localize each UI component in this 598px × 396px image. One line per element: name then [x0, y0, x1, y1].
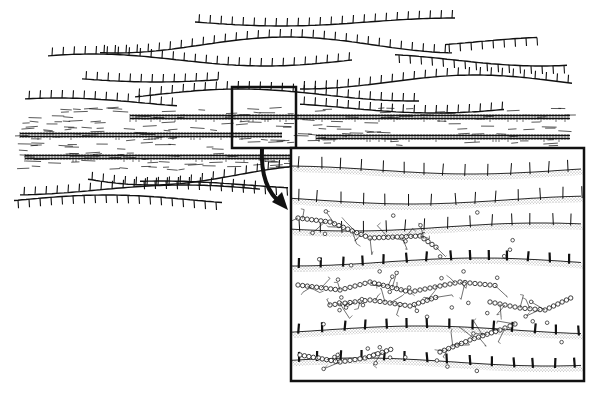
spore — [545, 321, 549, 325]
spore — [349, 264, 353, 268]
spore — [446, 365, 450, 369]
spore — [463, 282, 467, 286]
spore — [467, 301, 471, 305]
spore — [322, 322, 326, 326]
spore — [475, 369, 479, 373]
hatched-strand — [130, 114, 570, 122]
barbed-strand — [48, 46, 352, 66]
spore — [462, 270, 466, 274]
barbed-strand — [300, 96, 504, 113]
barbed-strand — [82, 71, 219, 82]
spore — [340, 296, 344, 300]
spore — [502, 254, 506, 258]
spore — [560, 340, 564, 344]
spore — [511, 238, 515, 242]
spore — [438, 255, 442, 259]
spore — [508, 248, 512, 252]
spore — [360, 297, 364, 301]
spore — [450, 306, 454, 310]
barbed-strand — [195, 10, 455, 26]
spore — [403, 355, 407, 359]
spore — [337, 301, 341, 305]
spore — [333, 355, 337, 359]
spore — [425, 315, 429, 319]
magnified-inset — [281, 148, 584, 381]
barbed-strand — [14, 195, 222, 210]
spore — [440, 276, 444, 280]
spore — [374, 361, 378, 365]
spore — [435, 359, 439, 363]
fiber-layers-figure — [0, 0, 598, 396]
spore — [388, 290, 392, 294]
barbed-strand — [25, 90, 177, 106]
barbed-strand — [445, 37, 538, 52]
spore — [317, 257, 321, 261]
spore — [407, 286, 411, 290]
hatched-strand — [316, 134, 570, 142]
spore — [361, 303, 365, 307]
barbed-strand — [100, 29, 452, 53]
barbed-strand — [20, 177, 260, 195]
hatched-strand — [25, 154, 290, 162]
spore — [378, 345, 382, 349]
spore — [531, 319, 535, 323]
spore — [495, 276, 499, 280]
spore — [366, 347, 370, 351]
spore — [391, 214, 395, 218]
spore — [317, 356, 321, 360]
barbed-strand — [395, 55, 567, 74]
spore — [323, 232, 327, 236]
fiber-illustration — [0, 0, 598, 396]
spore — [388, 356, 392, 360]
spore — [336, 278, 340, 282]
spore — [338, 308, 342, 312]
spore — [378, 270, 382, 274]
spore — [476, 211, 480, 215]
spore — [485, 311, 489, 315]
